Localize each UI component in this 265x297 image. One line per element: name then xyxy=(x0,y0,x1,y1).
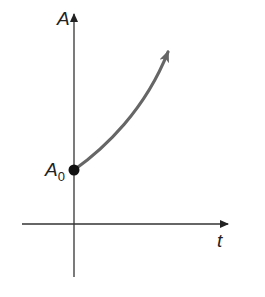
initial-point-label: A0 xyxy=(44,159,65,184)
initial-point-label-subscript: 0 xyxy=(58,169,65,184)
x-axis-label: t xyxy=(217,230,223,251)
y-axis-label: A xyxy=(56,8,70,29)
initial-point xyxy=(69,165,80,176)
initial-point-label-main: A xyxy=(44,159,58,180)
graph: A t A0 xyxy=(0,0,265,297)
growth-curve xyxy=(74,52,168,170)
